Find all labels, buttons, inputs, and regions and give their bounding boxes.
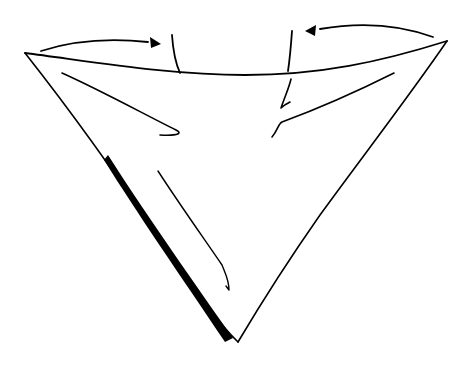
illustration-canvas — [0, 0, 476, 369]
right-arrow-head-icon — [305, 25, 316, 36]
triangle-right-edge — [238, 41, 447, 342]
left-arrow-head-icon — [150, 37, 161, 48]
folded-triangle-drawing — [0, 0, 476, 369]
right-fold-line — [288, 31, 292, 71]
left-fold-line — [172, 35, 180, 73]
triangle-top-edge — [25, 41, 447, 75]
right-arrow-curve — [320, 25, 433, 37]
lower-crease — [158, 171, 229, 290]
left-arrow-curve — [41, 40, 148, 51]
triangle-left-edge — [25, 53, 238, 342]
right-small-arrow — [281, 79, 291, 108]
